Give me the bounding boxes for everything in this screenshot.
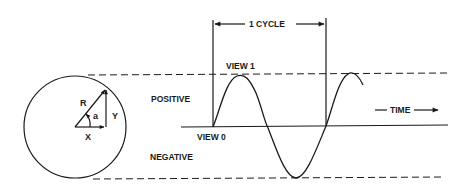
radius-label: R xyxy=(80,98,87,108)
angle-label: a xyxy=(93,111,99,121)
time-axis xyxy=(181,125,448,127)
time-label: TIME xyxy=(390,105,411,115)
sine-wave-diagram: R a Y X 1 CYCLE VIEW 1 VIEW 0 POSITIVE N… xyxy=(0,0,471,193)
x-label: X xyxy=(85,132,91,142)
cycle-label: 1 CYCLE xyxy=(249,19,285,29)
angle-arc xyxy=(86,114,90,127)
negative-label: NEGATIVE xyxy=(150,152,193,162)
view0-label: VIEW 0 xyxy=(197,132,226,142)
positive-label: POSITIVE xyxy=(151,94,191,104)
positive-peak-line xyxy=(88,73,450,75)
rotating-vector-circle xyxy=(24,76,126,178)
view1-label: VIEW 1 xyxy=(226,61,255,71)
negative-peak-line xyxy=(93,177,445,179)
y-label: Y xyxy=(112,111,118,121)
